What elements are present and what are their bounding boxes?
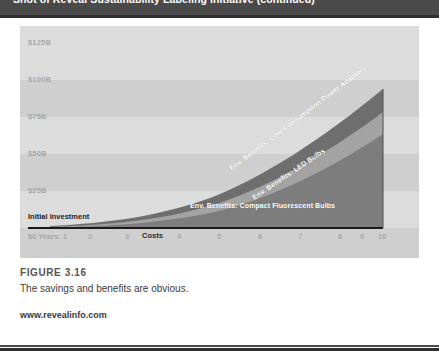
figure-card: $125B $100B $75B $50B $25B Initial Inves…	[0, 18, 439, 351]
x-axis-tick-7: 7	[298, 232, 302, 241]
x-axis-tick-10: 10	[378, 232, 386, 241]
x-axis-tick-1: 1	[63, 232, 67, 241]
y-axis-tick-125b: $125B	[28, 38, 51, 47]
x-axis-tick-4: 4	[177, 232, 181, 241]
x-axis-prefix: $0 Years:	[28, 232, 61, 241]
y-axis-tick-100b: $100B	[28, 75, 51, 84]
figure-number: FIGURE 3.16	[20, 267, 87, 278]
chart-plot-area	[20, 26, 419, 258]
x-axis-origin-label: $0 Years: 1	[28, 232, 67, 241]
x-axis-tick-5: 5	[217, 232, 221, 241]
page-header-title: Shot of Reveal Sustainability Labeling I…	[13, 0, 315, 5]
page-header: Shot of Reveal Sustainability Labeling I…	[0, 0, 439, 15]
y-axis-tick-25b: $25B	[28, 186, 47, 195]
stacked-area-svg	[20, 26, 419, 258]
source-url: www.revealinfo.com	[20, 310, 107, 320]
series-label-compact-fluorescent-bulbs: Env. Benefits: Compact Fluorescent Bulbs	[190, 202, 335, 209]
x-axis-tick-8: 8	[338, 232, 342, 241]
x-axis-title: Costs	[142, 231, 163, 240]
figure-caption: The savings and benefits are obvious.	[20, 283, 188, 294]
chart-container: $125B $100B $75B $50B $25B Initial Inves…	[20, 26, 419, 258]
footer-divider	[0, 345, 439, 347]
x-axis-tick-3: 3	[125, 232, 129, 241]
x-axis-tick-9: 9	[360, 232, 364, 241]
y-axis-tick-50b: $50B	[28, 149, 47, 158]
initial-investment-label: Initial Investment	[28, 212, 89, 221]
figure-page: Shot of Reveal Sustainability Labeling I…	[0, 0, 439, 351]
y-axis-tick-75b: $75B	[28, 112, 47, 121]
x-axis-tick-2: 2	[88, 232, 92, 241]
x-axis-tick-6: 6	[258, 232, 262, 241]
